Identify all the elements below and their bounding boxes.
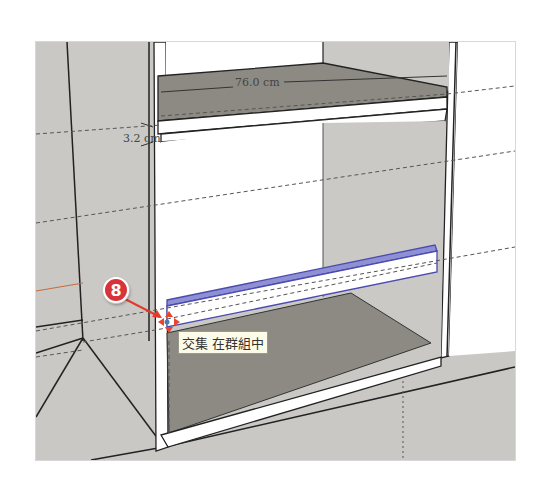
step-number-badge: 8 (103, 277, 129, 303)
thickness-dimension-label: 3.2 cm (123, 132, 161, 145)
inference-tooltip: 交集 在群組中 (178, 331, 268, 354)
cabinet-scene (36, 42, 515, 460)
model-viewport[interactable]: 76.0 cm 3.2 cm (35, 41, 516, 461)
width-dimension-label: 76.0 cm (235, 76, 280, 89)
